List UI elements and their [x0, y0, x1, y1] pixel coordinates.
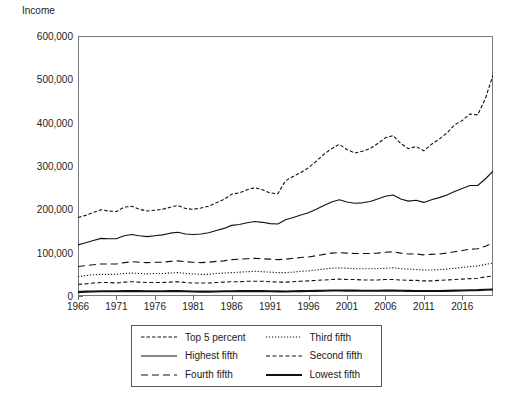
x-tick-mark [385, 296, 386, 300]
y-tick-label: 0 [67, 291, 73, 302]
legend-label: Lowest fifth [310, 369, 361, 380]
plot-area [78, 36, 493, 296]
x-tick-mark [116, 296, 117, 300]
x-tick-mark [424, 296, 425, 300]
x-tick-mark [232, 296, 233, 300]
x-tick-mark [309, 296, 310, 300]
legend-label: Fourth fifth [185, 369, 233, 380]
x-tick-label: 1996 [297, 301, 319, 312]
x-tick-label: 1966 [67, 301, 89, 312]
legend-line-icon [141, 351, 177, 361]
series-line [78, 276, 493, 284]
legend-label: Second fifth [310, 350, 363, 361]
legend-line-icon [266, 370, 302, 380]
series-lines [78, 36, 493, 296]
legend-item[interactable]: Fourth fifth [132, 369, 257, 380]
x-tick-label: 1971 [105, 301, 127, 312]
x-tick-label: 1981 [182, 301, 204, 312]
x-tick-label: 2016 [451, 301, 473, 312]
legend-line-icon [266, 351, 302, 361]
x-tick-mark [155, 296, 156, 300]
legend-item[interactable]: Second fifth [257, 350, 382, 361]
x-tick-mark [270, 296, 271, 300]
x-tick-label: 2011 [413, 301, 435, 312]
series-line [78, 290, 493, 293]
y-tick-label: 500,000 [37, 74, 73, 85]
x-tick-mark [462, 296, 463, 300]
y-axis-title: Income [22, 5, 55, 16]
legend-item[interactable]: Third fifth [257, 332, 382, 343]
legend-item[interactable]: Top 5 percent [132, 332, 257, 343]
x-tick-label: 2006 [374, 301, 396, 312]
legend-item[interactable]: Lowest fifth [257, 369, 382, 380]
legend-line-icon [266, 332, 302, 342]
y-tick-label: 600,000 [37, 31, 73, 42]
x-tick-mark [193, 296, 194, 300]
x-tick-label: 2001 [336, 301, 358, 312]
y-tick-label: 400,000 [37, 117, 73, 128]
x-tick-label: 1986 [221, 301, 243, 312]
income-quintiles-chart: Income 600,000500,000400,000300,000200,0… [0, 0, 506, 397]
series-line [78, 171, 493, 245]
legend-item[interactable]: Highest fifth [132, 350, 257, 361]
legend-line-icon [141, 370, 177, 380]
series-line [78, 243, 493, 266]
x-tick-mark [347, 296, 348, 300]
legend-label: Top 5 percent [185, 332, 246, 343]
y-tick-label: 300,000 [37, 161, 73, 172]
y-tick-label: 200,000 [37, 204, 73, 215]
series-line [78, 75, 493, 218]
x-tick-label: 1976 [144, 301, 166, 312]
series-line [78, 263, 493, 276]
y-tick-label: 100,000 [37, 247, 73, 258]
chart-legend: Top 5 percentThird fifthHighest fifthSec… [131, 325, 382, 387]
x-tick-label: 1991 [259, 301, 281, 312]
legend-line-icon [141, 332, 177, 342]
legend-label: Third fifth [310, 332, 352, 343]
x-tick-mark [78, 296, 79, 300]
legend-label: Highest fifth [185, 350, 238, 361]
